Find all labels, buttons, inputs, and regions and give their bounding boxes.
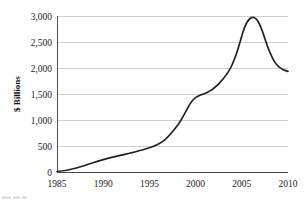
x-tick-label-2000: 2000: [186, 179, 205, 189]
x-tick-label-2005: 2005: [232, 179, 251, 189]
x-tick-label-1995: 1995: [140, 179, 159, 189]
y-tick-label-0: 0: [47, 168, 52, 178]
x-tick-label-2010: 2010: [279, 179, 298, 189]
x-tick-label-1985: 1985: [48, 179, 67, 189]
line-chart: 3,000 2,500 2,000 1,500 1,000 500 0 1985…: [0, 0, 305, 203]
y-tick-label-2500: 2,500: [31, 38, 53, 48]
cropped-caption-smudge: [2, 197, 27, 199]
y-tick-label-1500: 1,500: [31, 90, 53, 100]
y-tick-label-3000: 3,000: [31, 12, 53, 22]
chart-background: [0, 0, 305, 203]
y-tick-label-1000: 1,000: [31, 116, 53, 126]
x-tick-label-1990: 1990: [94, 179, 113, 189]
chart-figure: 3,000 2,500 2,000 1,500 1,000 500 0 1985…: [0, 0, 305, 203]
y-axis-title: $ Billions: [12, 76, 22, 112]
y-tick-label-500: 500: [38, 142, 53, 152]
y-tick-label-2000: 2,000: [31, 64, 53, 74]
